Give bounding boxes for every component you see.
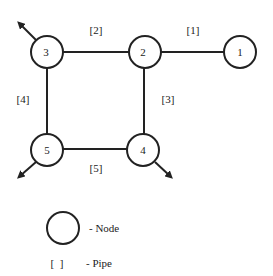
node-5-label: 5 [44,144,50,156]
pipe-4-label: [4] [17,93,30,105]
pipe-5-label: [5] [90,162,103,174]
legend-node-text: - Node [89,222,119,234]
node-1: 1 [224,36,256,68]
node-2-label: 2 [140,46,146,58]
flow-arrow-node-4 [155,162,170,176]
node-3-label: 3 [43,46,49,58]
node-2: 2 [129,36,161,68]
flow-arrow-node-5 [20,162,36,176]
pipe-1-label: [1] [187,24,200,36]
legend-pipe-text: - Pipe [86,257,112,269]
node-4-label: 4 [140,144,146,156]
legend-pipe-symbol: [ ] [51,257,64,269]
pipe-network-diagram: 1 2 3 4 5 [1] [2] [3] [4] [5] - Node [ ]… [0,0,273,276]
pipe-3-label: [3] [162,93,175,105]
legend: - Node [ ] - Pipe [47,212,119,269]
node-1-label: 1 [237,46,243,58]
node-5: 5 [31,134,63,166]
flow-arrow-node-3 [20,24,36,40]
legend-node-icon [47,212,79,244]
node-3: 3 [31,36,63,68]
node-4: 4 [127,134,159,166]
pipe-2-label: [2] [90,24,103,36]
